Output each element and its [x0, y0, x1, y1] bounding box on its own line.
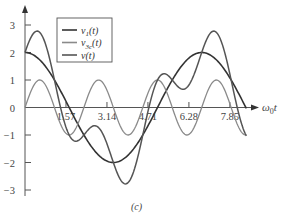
- legend: v1(t)v3c(t)v(t): [57, 18, 112, 62]
- x-tick-label: 3.14: [98, 111, 117, 122]
- x-axis-label-tail: t: [274, 101, 278, 113]
- y-tick-label: 1: [10, 75, 15, 86]
- x-axis-label: ω0t: [262, 101, 278, 116]
- figure-caption: (c): [131, 201, 143, 213]
- y-tick-label: −1: [4, 130, 15, 141]
- legend-label: v(t): [81, 50, 96, 62]
- x-tick-label: 6.28: [180, 111, 198, 122]
- y-tick-label: 2: [10, 48, 15, 59]
- y-axis-arrow-icon: [22, 5, 28, 13]
- x-axis-arrow-icon: [251, 105, 259, 111]
- harmonic-sum-chart: 3210−1−2−3 1.573.144.716.287.85 ω0t v1(t…: [0, 0, 297, 219]
- y-tick-label: −3: [4, 185, 15, 196]
- y-tick-label: 0: [10, 103, 15, 114]
- y-tick-label: 3: [10, 20, 15, 31]
- y-tick-label: −2: [4, 158, 15, 169]
